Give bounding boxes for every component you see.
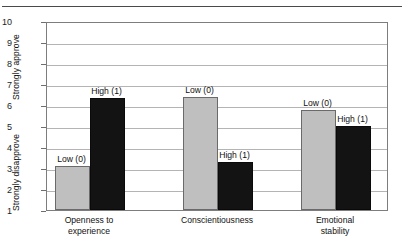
y-tick-label: 9 — [0, 39, 12, 48]
y-tick-label: 10 — [0, 18, 12, 27]
bar-low — [55, 166, 90, 210]
bar-high — [90, 98, 125, 210]
bar-high — [336, 126, 371, 210]
bar-value-label: Low (0) — [44, 155, 100, 164]
y-axis-title-strongly-disapprove: Strongly disapprove — [12, 134, 21, 211]
y-tick-label: 5 — [0, 123, 12, 132]
y-tick-mark — [41, 211, 46, 212]
bar-value-label: Low (0) — [172, 86, 228, 95]
bar-value-label: High (1) — [325, 115, 381, 124]
bar-value-label: High (1) — [79, 87, 135, 96]
y-tick-label: 7 — [0, 81, 12, 90]
bar-value-label: Low (0) — [290, 99, 346, 108]
x-axis-category-label: Emotional stability — [275, 215, 395, 236]
y-axis-title-strongly-approve: Strongly approve — [12, 34, 21, 100]
y-tick-label: 8 — [0, 60, 12, 69]
y-tick-label: 2 — [0, 186, 12, 195]
bar-chart-figure: Strongly approve Strongly disapprove 123… — [0, 0, 404, 241]
bar-high — [218, 162, 253, 210]
y-tick-label: 3 — [0, 165, 12, 174]
x-axis-category-label: Conscientiousness — [157, 215, 277, 226]
x-axis-category-label: Openness to experience — [29, 215, 149, 236]
gridline — [47, 44, 387, 45]
y-tick-label: 1 — [0, 207, 12, 216]
bar-low — [301, 110, 336, 210]
y-tick-label: 6 — [0, 102, 12, 111]
y-tick-label: 4 — [0, 144, 12, 153]
gridline — [47, 65, 387, 66]
bar-value-label: High (1) — [207, 151, 263, 160]
